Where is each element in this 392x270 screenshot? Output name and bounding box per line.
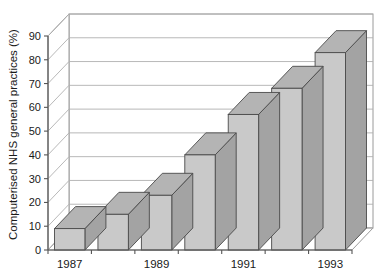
- bar-front-face: [55, 229, 85, 250]
- bar-chart: Computerised NHS general practices (%) 0…: [0, 0, 392, 270]
- y-tick-label-70: 70: [29, 78, 41, 90]
- x-tick-label-1989: 1989: [144, 258, 170, 270]
- y-tick-label-90: 90: [29, 30, 41, 42]
- chart-svg: Computerised NHS general practices (%) 0…: [0, 0, 392, 270]
- y-tick-label-0: 0: [35, 244, 41, 256]
- x-tick-label-1991: 1991: [231, 258, 257, 270]
- bar-side-face: [259, 92, 280, 250]
- y-tick-label-30: 30: [29, 173, 41, 185]
- y-axis-title-text: Computerised NHS general practices (%): [7, 29, 19, 240]
- y-axis-title: Computerised NHS general practices (%): [7, 29, 19, 240]
- y-tick-label-10: 10: [29, 220, 41, 232]
- bar-side-face: [302, 66, 323, 250]
- y-tick-label-60: 60: [29, 101, 41, 113]
- y-tick-label-40: 40: [29, 149, 41, 161]
- y-tick-label-20: 20: [29, 196, 41, 208]
- y-tick-label-80: 80: [29, 54, 41, 66]
- y-tick-label-50: 50: [29, 125, 41, 137]
- bar-side-face: [345, 31, 366, 250]
- x-tick-label-1987: 1987: [57, 258, 83, 270]
- x-tick-label-1993: 1993: [317, 258, 343, 270]
